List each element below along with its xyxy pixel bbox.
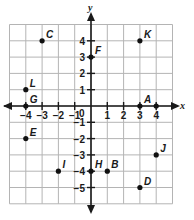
y-tick-label: 2 (79, 68, 85, 79)
point-d (137, 185, 142, 190)
point-f (88, 55, 93, 60)
point-unlabeled (154, 103, 159, 108)
point-label: A (143, 94, 151, 105)
point-i (56, 169, 61, 174)
x-tick-label: −4 (20, 110, 32, 121)
y-tick-label: −3 (74, 150, 86, 161)
point-label: D (144, 176, 151, 187)
x-tick-label: −2 (53, 110, 65, 121)
coordinate-plane: x y 0 −4−3−2−112344321−1−2−3−4−5 ABCDEFG… (0, 0, 194, 220)
y-axis-up-arrow-icon (87, 12, 95, 21)
y-tick-label: −2 (74, 134, 86, 145)
point-label: B (111, 159, 118, 170)
point-k (137, 38, 142, 43)
point-e (23, 136, 28, 141)
point-label: F (95, 45, 102, 56)
x-axis-label: x (179, 100, 185, 111)
point-label: E (30, 127, 37, 138)
point-h (88, 169, 93, 174)
y-axis-down-arrow-icon (87, 205, 95, 214)
point-l (23, 87, 28, 92)
y-tick-label: 1 (79, 85, 85, 96)
y-tick-label: −1 (74, 117, 86, 128)
point-b (105, 169, 110, 174)
point-label: H (95, 159, 103, 170)
y-tick-label: 3 (79, 52, 85, 63)
x-tick-label: 2 (121, 110, 127, 121)
point-label: L (30, 78, 36, 89)
point-a (137, 103, 142, 108)
point-label: G (30, 94, 38, 105)
x-tick-label: −3 (36, 110, 48, 121)
point-j (154, 152, 159, 157)
point-g (23, 103, 28, 108)
x-tick-label: 4 (153, 110, 159, 121)
point-label: K (144, 29, 152, 40)
y-tick-label: −4 (74, 166, 86, 177)
point-label: J (160, 143, 166, 154)
y-tick-label: −5 (74, 183, 86, 194)
point-c (40, 38, 45, 43)
y-tick-label: 4 (79, 36, 85, 47)
x-axis-right-arrow-icon (171, 102, 180, 110)
y-axis-label: y (87, 2, 93, 13)
point-label: I (62, 159, 65, 170)
x-tick-label: 1 (105, 110, 111, 121)
x-tick-label: 3 (137, 110, 143, 121)
point-label: C (46, 29, 54, 40)
x-axis-left-arrow-icon (3, 102, 12, 110)
